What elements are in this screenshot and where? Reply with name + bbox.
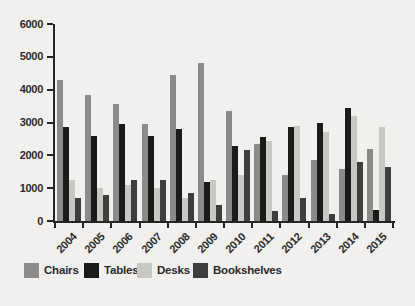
bar-desks-2011 <box>266 141 272 221</box>
bar-chart-plot-area: 0100020003000400050006000200420052006200… <box>55 24 393 221</box>
y-tick-label: 5000 <box>13 51 43 62</box>
x-tick-label: 2005 <box>75 231 107 263</box>
x-tick-label: 2008 <box>160 231 192 263</box>
bar-group-2004 <box>57 80 81 221</box>
chart-canvas: 0100020003000400050006000200420052006200… <box>0 0 415 306</box>
legend-swatch-tables <box>84 263 99 278</box>
y-tick-label: 4000 <box>13 84 43 95</box>
legend-label: Bookshelves <box>213 263 282 278</box>
x-axis-tick <box>223 223 225 228</box>
legend-item-desks: Desks <box>137 263 190 278</box>
bar-group-2010 <box>226 111 250 221</box>
legend-swatch-bookshelves <box>193 263 208 278</box>
x-tick-label: 2007 <box>132 231 164 263</box>
y-tick-label: 0 <box>13 216 43 227</box>
bar-group-2011 <box>254 137 278 221</box>
bar-bookshelves-2014 <box>357 162 363 221</box>
y-axis-tick <box>47 89 53 91</box>
bar-group-2013 <box>311 123 335 222</box>
bar-bookshelves-2011 <box>272 211 278 221</box>
bar-group-2006 <box>113 104 137 221</box>
y-axis-tick <box>47 56 53 58</box>
x-tick-label: 2012 <box>272 231 304 263</box>
bar-bookshelves-2006 <box>131 180 137 221</box>
bar-bookshelves-2008 <box>188 193 194 221</box>
bar-bookshelves-2012 <box>300 198 306 221</box>
bar-group-2015 <box>367 127 391 221</box>
x-tick-label: 2013 <box>301 231 333 263</box>
bar-bookshelves-2007 <box>160 180 166 221</box>
bar-bookshelves-2015 <box>385 167 391 221</box>
legend-item-chairs: Chairs <box>24 263 79 278</box>
x-axis-tick <box>139 223 141 228</box>
x-axis-tick <box>110 223 112 228</box>
x-axis-tick <box>336 223 338 228</box>
chart-legend: ChairsTablesDesksBookshelves <box>0 263 415 281</box>
y-tick-label: 2000 <box>13 150 43 161</box>
y-axis-tick <box>47 122 53 124</box>
bar-bookshelves-2010 <box>244 150 250 221</box>
bar-bookshelves-2013 <box>329 214 335 221</box>
legend-swatch-desks <box>137 263 152 278</box>
legend-item-tables: Tables <box>84 263 138 278</box>
y-axis-tick <box>47 220 53 222</box>
bar-group-2005 <box>85 95 109 221</box>
x-tick-label: 2011 <box>244 231 276 263</box>
bar-group-2007 <box>142 124 166 221</box>
y-axis-tick <box>47 154 53 156</box>
x-tick-label: 2014 <box>329 231 361 263</box>
bar-group-2008 <box>170 75 194 221</box>
x-axis-tick <box>308 223 310 228</box>
y-axis-tick <box>47 23 53 25</box>
x-tick-label: 2009 <box>188 231 220 263</box>
bar-bookshelves-2009 <box>216 205 222 221</box>
x-axis-tick <box>364 223 366 228</box>
x-axis-tick <box>82 223 84 228</box>
x-tick-label: 2004 <box>47 231 79 263</box>
y-tick-label: 1000 <box>13 183 43 194</box>
bar-desks-2013 <box>323 132 329 221</box>
y-axis-line <box>53 24 55 223</box>
bar-group-2012 <box>282 126 306 221</box>
x-axis-tick <box>392 223 394 228</box>
bar-bookshelves-2005 <box>103 195 109 221</box>
x-tick-label: 2010 <box>216 231 248 263</box>
x-axis-tick <box>54 223 56 228</box>
x-tick-label: 2015 <box>357 231 389 263</box>
bar-bookshelves-2004 <box>75 198 81 221</box>
y-axis-tick <box>47 187 53 189</box>
x-axis-tick <box>195 223 197 228</box>
legend-item-bookshelves: Bookshelves <box>193 263 282 278</box>
x-axis-tick <box>167 223 169 228</box>
legend-swatch-chairs <box>24 263 39 278</box>
legend-label: Tables <box>104 263 138 278</box>
legend-label: Chairs <box>44 263 79 278</box>
legend-label: Desks <box>157 263 190 278</box>
bar-group-2009 <box>198 63 222 221</box>
y-tick-label: 6000 <box>13 19 43 30</box>
x-axis-tick <box>251 223 253 228</box>
y-tick-label: 3000 <box>13 117 43 128</box>
x-tick-label: 2006 <box>103 231 135 263</box>
x-axis-tick <box>279 223 281 228</box>
bar-group-2014 <box>339 108 363 221</box>
